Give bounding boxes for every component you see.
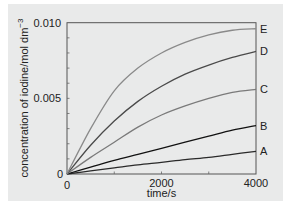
line-chart: ABCDE 0.010 0.005 0 0 2000 4000 time/s c… bbox=[0, 0, 290, 212]
x-axis-title: time/s bbox=[147, 187, 177, 199]
x-tick-label-4000: 4000 bbox=[244, 177, 268, 189]
y-tick-label-0: 0 bbox=[57, 168, 63, 180]
y-axis-title: concentration of iodine/mol dm−3 bbox=[16, 18, 30, 177]
curve-d bbox=[67, 51, 256, 174]
data-curves bbox=[67, 29, 256, 174]
curve-label-c: C bbox=[260, 83, 268, 95]
curve-label-b: B bbox=[260, 120, 267, 132]
curve-b bbox=[67, 126, 256, 174]
y-tick-label-0.010: 0.010 bbox=[33, 17, 61, 29]
curve-labels: ABCDE bbox=[260, 23, 268, 158]
y-tick-label-0.005: 0.005 bbox=[33, 92, 61, 104]
curve-e bbox=[67, 29, 256, 174]
plot-frame bbox=[67, 23, 256, 174]
curve-label-d: D bbox=[260, 45, 268, 57]
x-tick-label-0: 0 bbox=[64, 179, 70, 191]
curve-label-a: A bbox=[260, 145, 268, 157]
curve-label-e: E bbox=[260, 23, 267, 35]
